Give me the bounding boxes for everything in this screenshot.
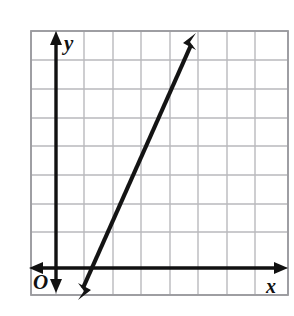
graph-figure: y x O	[0, 0, 294, 316]
origin-label: O	[33, 270, 48, 294]
x-axis-label: x	[265, 275, 276, 297]
coordinate-plane-svg: y x O	[0, 0, 294, 316]
